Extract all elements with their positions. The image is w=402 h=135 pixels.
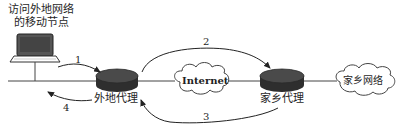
home-agent-router-icon [260, 69, 304, 92]
arrow-step-4 [48, 92, 92, 101]
mobile-node-label-line2: 的移动节点 [6, 16, 76, 29]
arrow-step-3 [141, 100, 278, 123]
internet-label: Internet [182, 74, 228, 87]
mobile-node-label-line1: 访问外地网络 [6, 3, 76, 16]
laptop-icon [10, 34, 60, 81]
foreign-agent-router-icon [96, 69, 138, 92]
mobile-node-label: 访问外地网络 的移动节点 [6, 3, 76, 29]
home-agent-label: 家乡代理 [260, 92, 304, 105]
home-network-label: 家乡网络 [343, 74, 383, 87]
step-4-label: 4 [63, 101, 69, 114]
foreign-agent-label: 外地代理 [94, 92, 138, 105]
step-3-label: 3 [203, 110, 209, 123]
step-1-label: 1 [75, 53, 81, 66]
step-2-label: 2 [203, 35, 209, 48]
